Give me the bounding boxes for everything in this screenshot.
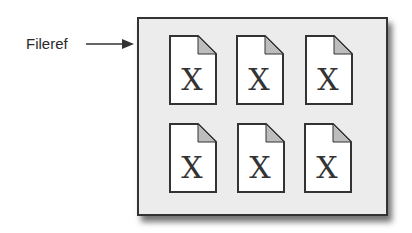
- document-icon: X: [304, 123, 352, 193]
- document-icon: X: [169, 123, 217, 193]
- document-icon: X: [169, 35, 217, 105]
- svg-text:X: X: [316, 150, 338, 185]
- svg-text:X: X: [181, 150, 203, 185]
- svg-text:X: X: [249, 150, 271, 185]
- svg-text:X: X: [317, 62, 339, 97]
- svg-text:X: X: [181, 62, 203, 97]
- fileref-label: Fileref: [26, 35, 68, 52]
- svg-text:X: X: [248, 62, 270, 97]
- fileref-container: X X X X X X: [137, 17, 388, 216]
- arrow-icon: [86, 38, 136, 50]
- document-icon: X: [236, 35, 284, 105]
- document-icon: X: [237, 123, 285, 193]
- document-icon: X: [305, 35, 353, 105]
